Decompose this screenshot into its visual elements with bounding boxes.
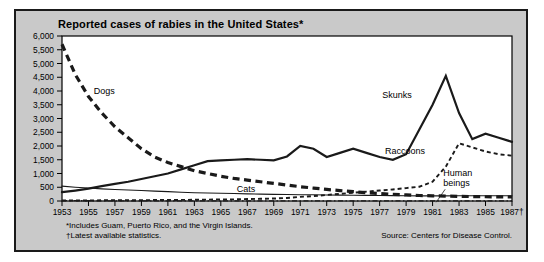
x-axis-label: 1983 xyxy=(450,207,469,217)
x-axis-label: 1963 xyxy=(185,207,204,217)
y-axis-label: 2,500 xyxy=(33,127,54,137)
y-axis-label: 2,000 xyxy=(33,141,54,151)
y-axis-label: 3,000 xyxy=(33,114,54,124)
chart-footnote: †Latest available statistics. xyxy=(66,231,161,240)
x-axis-label: 1961 xyxy=(159,207,178,217)
series-label-raccoons: Raccoons xyxy=(385,146,426,156)
y-axis-label: 6,000 xyxy=(33,31,54,41)
x-axis-label: 1965 xyxy=(212,207,231,217)
x-axis-label: 1985 xyxy=(476,207,495,217)
series-label-skunks: Skunks xyxy=(382,90,412,100)
chart-footnote: *Includes Guam, Puerto Rico, and the Vir… xyxy=(66,221,253,230)
chart-source: Source: Centers for Disease Control. xyxy=(381,231,512,240)
x-axis-label: 1959 xyxy=(132,207,151,217)
y-axis-label: 0 xyxy=(49,196,54,206)
svg-text:Human: Human xyxy=(443,168,472,178)
x-axis-label: 1971 xyxy=(291,207,310,217)
x-axis-label: 1981 xyxy=(423,207,442,217)
x-axis-label: 1973 xyxy=(317,207,336,217)
y-axis-label: 1,500 xyxy=(33,155,54,165)
y-axis-label: 3,500 xyxy=(33,100,54,110)
y-axis-label: 500 xyxy=(40,182,54,192)
x-axis-label: 1955 xyxy=(79,207,98,217)
x-axis-label: 1969 xyxy=(264,207,283,217)
series-label-cats: Cats xyxy=(237,184,256,194)
x-axis-label: 1967 xyxy=(238,207,257,217)
y-axis-label: 5,500 xyxy=(33,45,54,55)
svg-text:beings: beings xyxy=(443,178,470,188)
y-axis-label: 5,000 xyxy=(33,59,54,69)
x-axis-label: 1957 xyxy=(106,207,125,217)
y-axis-label: 4,500 xyxy=(33,72,54,82)
x-axis-label: 1953 xyxy=(53,207,72,217)
y-axis-label: 4,000 xyxy=(33,86,54,96)
chart-figure: Reported cases of rabies in the United S… xyxy=(14,9,528,252)
x-axis-label: 1987† xyxy=(500,207,524,217)
x-axis-label: 1975 xyxy=(344,207,363,217)
x-axis-label: 1977 xyxy=(370,207,389,217)
series-label-dogs: Dogs xyxy=(94,86,116,96)
chart-plot: 05001,0001,5002,0002,5003,0003,5004,0004… xyxy=(16,11,526,250)
x-axis-label: 1979 xyxy=(397,207,416,217)
y-axis-label: 1,000 xyxy=(33,169,54,179)
